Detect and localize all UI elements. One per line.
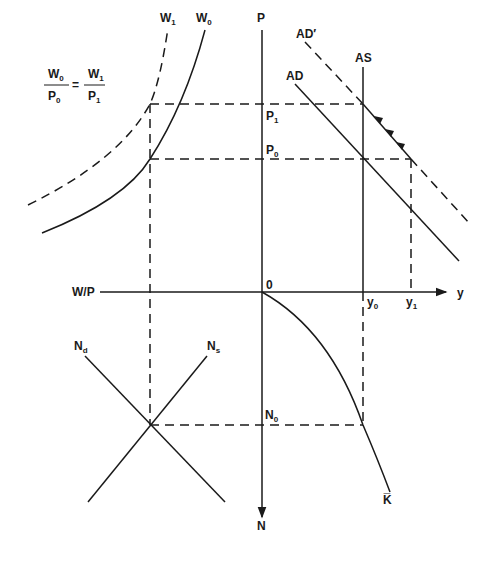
p1-label: P1 [266, 109, 279, 125]
real-wage-equation: W0 P0 = W1 P1 [44, 67, 105, 105]
n-axis-label: N [257, 519, 266, 533]
arrow-icon [385, 129, 394, 137]
wp-axis-label: W/P [72, 285, 95, 299]
ad-curve [295, 84, 459, 261]
eq-p0: P0 [48, 89, 61, 105]
p-axis-label: P [257, 11, 265, 25]
arrow-icon [396, 142, 405, 150]
adjustment-arrows [374, 116, 405, 150]
p0-label: P0 [266, 143, 279, 159]
ad-prime-lower-dashed [411, 159, 470, 224]
n0-label: N0 [265, 408, 279, 424]
eq-w1: W1 [88, 67, 104, 83]
eq-p1: P1 [88, 89, 101, 105]
kbar-label: K̅ [383, 493, 392, 507]
four-quadrant-diagram: W0 P0 = W1 P1 P y W/P N 0 W1 W0 AS AD AD… [0, 0, 493, 564]
eq-w0: W0 [48, 67, 64, 83]
nd-label: Nd [74, 339, 88, 355]
y0-label: y0 [367, 295, 379, 311]
y1-label: y1 [406, 295, 418, 311]
w1-label: W1 [160, 11, 176, 27]
w0-curve [42, 30, 205, 233]
w1-curve [28, 28, 168, 205]
ad-label: AD [286, 69, 304, 83]
ad-prime-label: AD′ [296, 27, 316, 41]
ns-label: Ns [207, 339, 221, 355]
as-label: AS [355, 51, 372, 65]
w0-label: W0 [196, 11, 212, 27]
eq-equals: = [72, 78, 79, 92]
origin-label: 0 [266, 278, 273, 292]
y-axis-label: y [457, 286, 464, 300]
production-function-curve [262, 292, 390, 492]
